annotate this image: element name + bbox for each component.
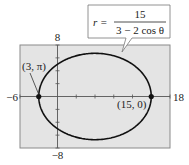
- y-tick-label-min: −8: [52, 149, 64, 161]
- x-tick-label-min: −6: [6, 91, 18, 103]
- y-tick-label-max: 8: [55, 31, 61, 43]
- equation-numerator: 15: [135, 8, 147, 20]
- point-label: (15, 0): [117, 98, 147, 111]
- equation-lhs: r =: [93, 16, 107, 28]
- chart: −6 18 8 −8 (3, π) (15, 0) r = 15 3 − 2 c…: [0, 0, 189, 165]
- data-point: [149, 94, 154, 99]
- equation-denominator: 3 − 2 cos θ: [116, 24, 164, 36]
- x-tick-label-max: 18: [173, 91, 185, 103]
- data-point: [36, 94, 41, 99]
- point-label: (3, π): [22, 60, 46, 73]
